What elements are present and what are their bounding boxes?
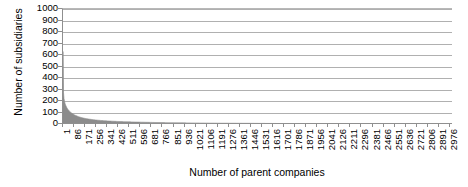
x-axis-tick-label: 1106 [206, 127, 216, 149]
x-axis-tick-label: 1361 [239, 127, 249, 150]
y-axis-tick-label: 900 [20, 15, 58, 25]
x-axis-title: Number of parent companies [62, 166, 452, 178]
x-axis-tick-label: 1276 [228, 127, 238, 150]
y-axis-tick-mark [57, 31, 62, 32]
x-axis-tick-label: 171 [84, 127, 94, 145]
x-axis-tick-label: 2296 [360, 127, 370, 150]
x-axis-tick-label: 256 [95, 127, 105, 145]
x-axis-tick-label: 1446 [250, 127, 260, 150]
x-axis-tick-label: 1701 [283, 127, 293, 150]
x-axis-tick-label: 1956 [316, 127, 326, 150]
x-axis-tick-label: 2381 [372, 127, 382, 150]
y-axis-tick-label: 400 [20, 72, 58, 82]
x-axis-tick-label: 1616 [272, 127, 282, 150]
x-axis-tick-label: 1871 [305, 127, 315, 150]
x-axis-tick-label: 341 [106, 127, 116, 145]
y-axis-tick-mark [57, 43, 62, 44]
x-axis-tick-label: 1 [62, 127, 72, 134]
data-series-area [63, 9, 452, 123]
y-axis-tick-label: 200 [20, 95, 58, 105]
x-axis-tick-label: 2126 [338, 127, 348, 150]
y-axis-tick-mark [57, 123, 62, 124]
y-axis-tick-mark [57, 20, 62, 21]
x-axis-tick-label: 2806 [427, 127, 437, 150]
x-axis-tick-label: 681 [150, 127, 160, 145]
y-axis-tick-label: 100 [20, 107, 58, 117]
x-axis-tick-label: 2211 [349, 127, 359, 149]
y-axis-tick-mark [57, 112, 62, 113]
x-axis-tick-label: 1531 [261, 127, 271, 150]
x-axis-tick-labels: 1861712563414265115966817668519361021110… [62, 124, 452, 160]
y-axis-tick-labels: 01002003004005006007008009001000 [20, 8, 58, 123]
y-axis-tick-mark [57, 77, 62, 78]
y-axis-tick-label: 300 [20, 84, 58, 94]
x-axis-tick-label: 2466 [383, 127, 393, 150]
x-axis-tick-label: 1191 [217, 127, 227, 149]
x-axis-tick-label: 851 [173, 127, 183, 145]
series-path [63, 52, 452, 123]
y-axis-tick-label: 800 [20, 26, 58, 36]
x-axis-tick-label: 511 [128, 127, 138, 144]
x-axis-tick-label: 766 [161, 127, 171, 145]
y-axis-tick-label: 500 [20, 61, 58, 71]
x-axis-tick-label: 2636 [405, 127, 415, 150]
x-axis-tick-label: 2551 [394, 127, 404, 150]
x-axis-tick-label: 2891 [438, 127, 448, 150]
y-axis-tick-mark [57, 89, 62, 90]
x-axis-tick-label: 86 [73, 127, 83, 140]
y-axis-tick-label: 700 [20, 38, 58, 48]
x-axis-tick-label: 596 [139, 127, 149, 145]
x-axis-tick-label: 2976 [449, 127, 459, 150]
y-axis-tick-label: 600 [20, 49, 58, 59]
x-axis-tick-label: 936 [184, 127, 194, 145]
chart-container: Number of subsidiaries 01002003004005006… [0, 0, 468, 187]
x-axis-tick-label: 2721 [416, 127, 426, 150]
x-axis-tick-label: 1786 [294, 127, 304, 150]
plot-area [62, 8, 452, 123]
y-axis-tick-mark [57, 54, 62, 55]
x-axis-tick-label: 426 [117, 127, 127, 145]
x-axis-tick-label: 2041 [327, 127, 337, 150]
x-axis-tick-label: 1021 [195, 127, 205, 150]
y-axis-tick-mark [57, 66, 62, 67]
y-axis-tick-mark [57, 100, 62, 101]
y-axis-tick-label: 0 [20, 118, 58, 128]
y-axis-tick-mark [57, 8, 62, 9]
y-axis-tick-label: 1000 [20, 3, 58, 13]
